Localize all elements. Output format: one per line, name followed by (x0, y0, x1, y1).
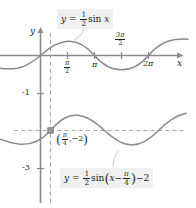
eq-bottom-fraction-one-half: 12 (83, 170, 90, 186)
x-tick-label-pi-over-2: π 2 (63, 60, 71, 75)
point-coordinate-label: (π4,−2) (56, 132, 88, 147)
eq-top-equals: = (69, 14, 77, 24)
x-axis-label: x (177, 59, 182, 68)
fraction-pi-over-2: π 2 (64, 60, 70, 75)
equation-label-bottom: y = 12sin(x−π4)−2 (60, 168, 153, 188)
equation-label-top: y = 12sin x (57, 9, 113, 29)
eq-bottom-minus-inner: − (115, 173, 123, 183)
eq-top-lhs: y (61, 14, 66, 24)
y-tick-label-minus-1: -1 (22, 89, 30, 97)
eq-top-fraction-one-half: 12 (80, 11, 87, 27)
fraction-3pi-over-2: 3π 2 (115, 32, 125, 47)
sine-graph-figure: y x π 2 π 3π 2 2π -1 -3 (π4,−2) y = 12si… (0, 0, 196, 208)
eq-bottom-minus-outer: − (136, 173, 144, 183)
curve-half-sin-shifted (0, 113, 186, 145)
x-tick-label-pi: π (92, 61, 97, 69)
x-tick-label-3pi-over-2: 3π 2 (114, 32, 126, 47)
y-tick-label-minus-3: -3 (22, 164, 30, 172)
point-close-paren: ) (83, 133, 88, 147)
x-tick-label-2pi: 2π (143, 60, 153, 68)
leader-line-bottom (113, 150, 119, 167)
eq-top-arg: x (104, 14, 109, 24)
eq-bottom-shift: 2 (144, 173, 150, 183)
fraction-pi-over-4: π4 (62, 132, 68, 147)
eq-top-sin: sin (88, 14, 101, 24)
eq-bottom-equals: = (72, 173, 80, 183)
y-axis-label: y (30, 27, 35, 36)
point-y-value: −2 (72, 134, 84, 143)
eq-bottom-sin: sin (91, 173, 104, 183)
eq-bottom-lhs: y (64, 173, 69, 183)
point-marker (48, 128, 53, 133)
eq-bottom-fraction-pi-over-4: π4 (123, 170, 130, 186)
point-open-paren: ( (56, 133, 61, 147)
